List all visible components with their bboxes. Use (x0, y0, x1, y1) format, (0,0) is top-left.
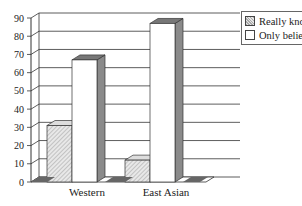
y-axis-ticks: 0102030405060708090 (14, 13, 31, 188)
y-tick-label: 10 (14, 158, 24, 169)
bar-only-believes-east-asian (150, 18, 183, 182)
legend-label: Only believes (259, 30, 302, 41)
category-label-east-asian: East Asian (143, 186, 190, 198)
y-tick-label: 90 (14, 13, 24, 24)
y-tick-label: 30 (14, 122, 24, 133)
hatched-swatch-icon (245, 16, 255, 26)
y-tick-label: 70 (14, 49, 24, 60)
y-tick-label: 0 (19, 177, 24, 188)
white-swatch-icon (245, 30, 255, 40)
category-label-western: Western (69, 186, 105, 198)
bars (31, 18, 208, 182)
bar-only-believes-western (72, 55, 105, 182)
legend-item-only-believes: Only believes (245, 28, 302, 42)
y-tick-label: 50 (14, 85, 24, 96)
y-tick-label: 80 (14, 31, 24, 42)
y-tick-label: 60 (14, 67, 24, 78)
y-tick-label: 20 (14, 140, 24, 151)
legend-item-really-knows: Really knows (245, 14, 302, 28)
legend-label: Really knows (259, 16, 302, 27)
y-tick-label: 40 (14, 104, 24, 115)
legend: Really knows Only believes (241, 11, 302, 45)
